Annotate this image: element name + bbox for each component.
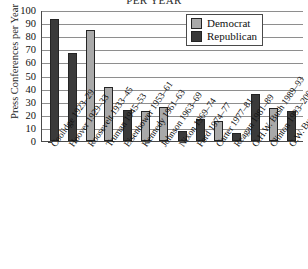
y-tick-label: 40 [26, 84, 37, 95]
y-tick-label: 20 [26, 111, 37, 122]
press-conferences-bar-chart: PER YEAR Press Conferences per Year 1009… [0, 0, 308, 269]
x-axis-tick-labels: Coolidge 1923–29Hoover 1929–33Roosevelt … [41, 143, 303, 269]
y-axis-tick-labels: 1009080706050403020100 [11, 11, 36, 142]
y-tick-label: 80 [26, 32, 37, 43]
legend-item[interactable]: Democrat [191, 18, 257, 30]
legend-swatch-icon [191, 31, 202, 42]
bar [50, 19, 59, 141]
y-tick-label: 0 [31, 137, 36, 148]
chart-legend: DemocratRepublican [186, 14, 263, 46]
y-tick-label: 90 [26, 19, 37, 30]
y-tick-label: 10 [26, 124, 37, 135]
legend-label: Republican [207, 31, 257, 43]
y-tick-label: 100 [20, 6, 36, 17]
legend-swatch-icon [191, 18, 202, 29]
y-tick-label: 70 [26, 45, 37, 56]
bar-slot [45, 11, 63, 141]
legend-label: Democrat [207, 18, 250, 30]
y-tick-label: 30 [26, 97, 37, 108]
y-tick-label: 50 [26, 71, 37, 82]
chart-title: PER YEAR [0, 0, 308, 6]
legend-item[interactable]: Republican [191, 31, 257, 43]
y-tick-label: 60 [26, 58, 37, 69]
